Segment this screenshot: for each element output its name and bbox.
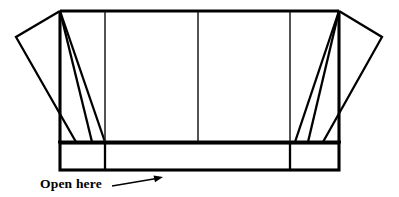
diagram-canvas: Open here <box>0 0 399 197</box>
annotation-arrow-group <box>112 176 163 186</box>
pointer-arrow-line <box>112 178 158 186</box>
shape-fills <box>16 11 382 170</box>
body-fill <box>60 11 339 142</box>
bottom-strip-fill <box>60 143 339 170</box>
carton-diagram: Open here <box>0 0 399 197</box>
open-here-label: Open here <box>40 176 102 191</box>
pointer-arrow-head <box>154 176 164 183</box>
